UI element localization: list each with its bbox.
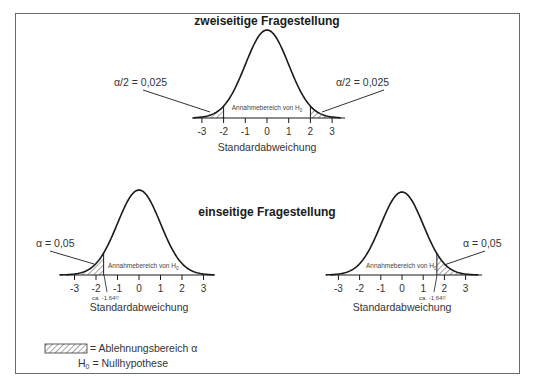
one-sided-title: einseitige Fragestellung [198, 205, 335, 219]
tick-label: 2 [308, 126, 314, 137]
pointer-line [444, 251, 485, 265]
x-axis-label: Standardabweichung [353, 301, 452, 313]
tick-label: 0 [136, 283, 142, 294]
pointer-line [50, 251, 94, 264]
tick-label: -1 [241, 126, 250, 137]
tick-label: 1 [286, 126, 292, 137]
normal-distribution-figure: zweiseitige Fragestellung -3-2-10123 Ann… [0, 0, 533, 388]
rejection-swatch [45, 344, 87, 353]
x-axis-ticks: -3-2-10123 [70, 275, 207, 294]
two-sided-title: zweiseitige Fragestellung [194, 14, 339, 28]
legend-rejection-label: = Ablehnungsbereich α [90, 342, 197, 354]
alpha-label: α = 0,05 [36, 237, 75, 249]
alpha-half-right-label: α/2 = 0,025 [336, 76, 389, 88]
pointer-line-left [143, 90, 210, 112]
tick-label: 0 [399, 283, 405, 294]
tick-label: -2 [355, 283, 364, 294]
alpha-label: α = 0,05 [463, 237, 502, 249]
x-axis-ticks: -3-2-10123 [197, 118, 335, 137]
legend-h0-label: H0 = Nullhypothese [78, 357, 168, 370]
x-axis-ticks: -3-2-10123 [334, 275, 469, 294]
tick-label: 2 [442, 283, 448, 294]
critical-pointer [104, 275, 107, 292]
tick-label: 2 [179, 283, 185, 294]
critical-pointer [434, 275, 437, 292]
tick-label: -1 [376, 283, 385, 294]
tick-label: -3 [197, 126, 206, 137]
one-sided-left-diagram: -3-2-10123 ca. -1,64!! Annahmebereich vo… [36, 190, 215, 313]
tick-label: -2 [92, 283, 101, 294]
legend: = Ablehnungsbereich α H0 = Nullhypothese [45, 342, 197, 370]
rejection-region [59, 253, 103, 275]
pointer-line-right [322, 90, 384, 112]
x-axis-label: Standardabweichung [218, 141, 317, 153]
tick-label: 3 [463, 283, 469, 294]
tick-label: 1 [158, 283, 164, 294]
tick-label: 3 [201, 283, 207, 294]
tick-label: 0 [264, 126, 270, 137]
tick-label: -1 [113, 283, 122, 294]
acceptance-region-label: Annahmebereich von H0 [232, 104, 303, 113]
tick-label: 1 [420, 283, 426, 294]
two-sided-diagram: zweiseitige Fragestellung -3-2-10123 Ann… [114, 14, 389, 153]
acceptance-region-label: Annahmebereich von H0 [366, 262, 437, 271]
one-sided-right-diagram: -3-2-10123 ca. -1,64!! Annahmebereich vo… [326, 192, 502, 313]
tick-label: 3 [329, 126, 335, 137]
tick-label: -3 [70, 283, 79, 294]
tick-label: -2 [219, 126, 228, 137]
tick-label: -3 [334, 283, 343, 294]
x-axis-label: Standardabweichung [90, 301, 189, 313]
alpha-half-left-label: α/2 = 0,025 [114, 76, 167, 88]
acceptance-region-label: Annahmebereich von H0 [108, 262, 179, 271]
